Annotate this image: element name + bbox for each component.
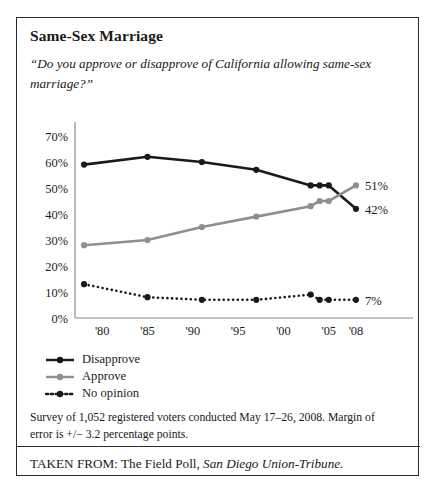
x-axis-tick-label: '08 xyxy=(349,324,364,338)
page-title: Same-Sex Marriage xyxy=(30,27,163,45)
data-point xyxy=(144,154,150,160)
series-end-label: 7% xyxy=(365,294,382,308)
line-chart: 0%10%20%30%40%50%60%70%'80'85'90'95'00'0… xyxy=(17,108,420,344)
series-line-disapprove xyxy=(84,157,356,209)
x-axis-tick-label: '05 xyxy=(321,324,336,338)
data-point xyxy=(199,159,205,165)
y-axis-tick-label: 20% xyxy=(45,260,68,274)
x-axis-tick-label: '90 xyxy=(186,324,201,338)
data-point xyxy=(199,224,205,230)
y-axis-tick-label: 30% xyxy=(45,234,68,248)
survey-question: “Do you approve or disapprove of Califor… xyxy=(30,54,386,94)
series-line-approve xyxy=(84,185,356,245)
x-axis-tick-label: '80 xyxy=(95,324,110,338)
line-dot-marker-black-icon xyxy=(45,353,75,367)
y-axis-tick-label: 40% xyxy=(45,208,68,222)
x-axis-tick-label: '95 xyxy=(231,324,246,338)
legend-item-disapprove: Disapprove xyxy=(45,351,295,368)
data-point xyxy=(326,297,332,303)
data-point xyxy=(353,206,359,212)
source-attribution: TAKEN FROM: The Field Poll, San Diego Un… xyxy=(30,456,343,472)
data-point xyxy=(317,297,323,303)
y-axis-tick-label: 50% xyxy=(45,182,68,196)
chart-legend: Disapprove Approve No opinion xyxy=(45,351,295,402)
data-point xyxy=(81,162,87,168)
legend-item-no-opinion: No opinion xyxy=(45,385,295,402)
chart-canvas: 0%10%20%30%40%50%60%70%'80'85'90'95'00'0… xyxy=(17,108,420,344)
data-point xyxy=(317,182,323,188)
x-axis-tick-label: '85 xyxy=(140,324,155,338)
survey-note: Survey of 1,052 registered voters conduc… xyxy=(30,410,398,444)
data-point xyxy=(144,237,150,243)
data-point xyxy=(81,242,87,248)
data-point xyxy=(308,292,314,298)
dotted-line-dot-marker-black-icon xyxy=(45,387,75,401)
source-divider xyxy=(17,446,420,447)
series-end-label: 51% xyxy=(365,179,389,193)
y-axis-tick-label: 60% xyxy=(45,156,68,170)
source-publication: San Diego Union-Tribune. xyxy=(203,456,343,471)
data-point xyxy=(326,198,332,204)
y-axis-tick-label: 0% xyxy=(51,312,68,326)
data-point xyxy=(317,198,323,204)
data-point xyxy=(253,214,259,220)
data-point xyxy=(308,203,314,209)
data-point xyxy=(353,297,359,303)
data-point xyxy=(353,182,359,188)
data-point xyxy=(81,281,87,287)
data-point xyxy=(144,294,150,300)
legend-label: Approve xyxy=(82,369,126,384)
line-dot-marker-gray-icon xyxy=(45,370,75,384)
data-point xyxy=(253,297,259,303)
data-point xyxy=(326,182,332,188)
series-end-label: 42% xyxy=(365,203,389,217)
legend-item-approve: Approve xyxy=(45,368,295,385)
y-axis-tick-label: 10% xyxy=(45,286,68,300)
figure-frame: Same-Sex Marriage “Do you approve or dis… xyxy=(16,17,419,476)
data-point xyxy=(308,182,314,188)
legend-label: No opinion xyxy=(82,386,139,401)
x-axis-tick-label: '00 xyxy=(276,324,291,338)
legend-label: Disapprove xyxy=(82,352,140,367)
data-point xyxy=(253,167,259,173)
y-axis-tick-label: 70% xyxy=(45,130,68,144)
data-point xyxy=(199,297,205,303)
source-prefix: TAKEN FROM: The Field Poll, xyxy=(30,456,203,471)
series-line-no-opinion xyxy=(84,284,356,300)
